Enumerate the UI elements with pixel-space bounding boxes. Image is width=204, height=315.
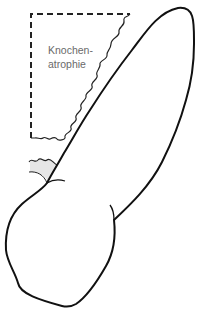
atrophy-label-line1: Knochen-	[48, 43, 93, 57]
bone-illustration	[0, 0, 204, 315]
atrophy-label-line2: atrophie	[48, 57, 93, 71]
atrophy-label: Knochen- atrophie	[48, 43, 93, 71]
joint-line-left	[47, 180, 65, 183]
bone-outline	[6, 8, 194, 307]
bone-atrophy-diagram: Knochen- atrophie	[0, 0, 204, 315]
atrophy-wavy-edge	[31, 14, 130, 140]
atrophy-region-dashed-outline	[31, 14, 130, 138]
joint-line-right	[110, 205, 114, 220]
